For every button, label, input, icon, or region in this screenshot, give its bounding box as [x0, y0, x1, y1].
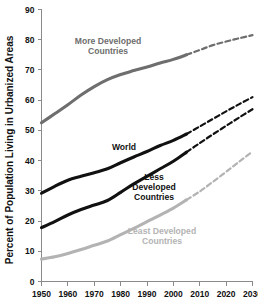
y-axis: 0102030405060708090	[25, 5, 41, 287]
x-tick-label: 1970	[85, 289, 104, 299]
series-more-developed-countries	[42, 35, 253, 123]
x-tick-label: 2030	[243, 289, 258, 299]
y-tick-label: 90	[25, 5, 35, 15]
y-axis-title-group: Percent of Population Living in Urbanize…	[4, 35, 15, 264]
y-tick-label: 40	[25, 156, 35, 166]
series-less-developed-countries	[42, 109, 253, 227]
label-least-developed-line1: Least Developed	[128, 226, 196, 236]
label-less-developed-line1: Less	[144, 172, 164, 182]
x-tick-group: 195019601970198019902000201020202030	[32, 282, 258, 299]
series-annotations: More Developed Countries World Less Deve…	[75, 36, 196, 246]
y-axis-title: Percent of Population Living in Urbanize…	[4, 35, 15, 264]
y-tick-label: 60	[25, 95, 35, 105]
y-tick-label: 30	[25, 186, 35, 196]
y-tick-label: 50	[25, 125, 35, 135]
urbanization-line-chart: Percent of Population Living in Urbanize…	[0, 0, 258, 307]
x-tick-label: 1980	[111, 289, 130, 299]
label-least-developed-line2: Countries	[142, 236, 182, 246]
y-tick-label: 20	[25, 216, 35, 226]
y-tick-label: 80	[25, 35, 35, 45]
x-tick-label: 1990	[138, 289, 157, 299]
label-more-developed-line1: More Developed	[75, 36, 141, 46]
y-tick-label: 70	[25, 65, 35, 75]
label-less-developed-line3: Countries	[134, 192, 174, 202]
x-tick-label: 1950	[32, 289, 51, 299]
series-projection-line	[187, 152, 253, 200]
x-tick-label: 1960	[58, 289, 77, 299]
series-historical-line	[42, 55, 187, 123]
label-more-developed-line2: Countries	[88, 46, 128, 56]
x-axis: 195019601970198019902000201020202030	[32, 282, 258, 299]
x-tick-label: 2010	[190, 289, 209, 299]
series-projection-line	[187, 35, 253, 55]
y-tick-group: 0102030405060708090	[25, 5, 41, 287]
y-tick-label: 0	[30, 277, 35, 287]
label-less-developed-line2: Developed	[132, 182, 175, 192]
x-tick-label: 2000	[164, 289, 183, 299]
x-tick-label: 2020	[217, 289, 236, 299]
label-world: World	[112, 142, 136, 152]
y-tick-label: 10	[25, 246, 35, 256]
chart-canvas: Percent of Population Living in Urbanize…	[0, 0, 258, 307]
